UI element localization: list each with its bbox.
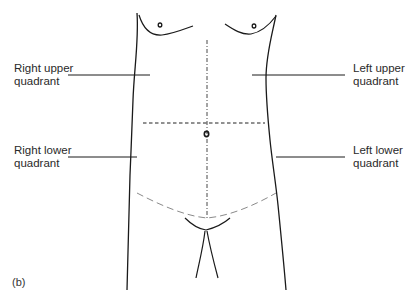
chest-curve-left bbox=[225, 16, 276, 34]
label-right-upper-quadrant: Right upper quadrant bbox=[14, 62, 73, 88]
groin-curve bbox=[185, 218, 230, 230]
label-line-1: Right lower bbox=[14, 144, 72, 157]
label-right-lower-quadrant: Right lower quadrant bbox=[14, 144, 72, 170]
inner-thigh-left bbox=[207, 231, 218, 278]
torso-outline-left-side bbox=[266, 15, 286, 290]
chest-curve-right bbox=[139, 15, 193, 35]
label-line-2: quadrant bbox=[353, 157, 403, 170]
label-line-1: Left lower bbox=[353, 144, 403, 157]
navel bbox=[204, 131, 208, 136]
torso-outline-right-side bbox=[127, 13, 137, 290]
label-line-2: quadrant bbox=[14, 75, 73, 88]
inner-thigh-right bbox=[196, 231, 205, 278]
label-left-lower-quadrant: Left lower quadrant bbox=[353, 144, 403, 170]
label-line-2: quadrant bbox=[353, 75, 405, 88]
label-line-1: Right upper bbox=[14, 62, 73, 75]
label-line-1: Left upper bbox=[353, 62, 405, 75]
nipple-right bbox=[158, 23, 162, 27]
label-left-upper-quadrant: Left upper quadrant bbox=[353, 62, 405, 88]
panel-label: (b) bbox=[12, 276, 25, 288]
nipple-left bbox=[252, 24, 256, 28]
inguinal-curve bbox=[137, 193, 276, 218]
label-line-2: quadrant bbox=[14, 157, 72, 170]
